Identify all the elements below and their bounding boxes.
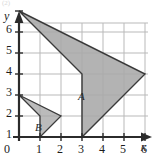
y-tick-label-6: 6 [6, 23, 12, 35]
x-tick-label-2: 2 [57, 143, 63, 155]
x-tick-label-3: 3 [78, 143, 84, 155]
y-tick-label-2: 2 [6, 107, 12, 119]
origin-label: 0 [4, 143, 10, 155]
y-tick-label-5: 5 [6, 44, 12, 56]
shape-label-A: A [78, 91, 85, 102]
figure-canvas [0, 0, 154, 159]
y-tick-label-3: 3 [6, 86, 12, 98]
y-tick-label-4: 4 [6, 65, 12, 77]
shape-label-B: B [35, 122, 42, 133]
y-tick-label-1: 1 [6, 128, 12, 140]
y-axis-title: y [4, 10, 9, 22]
coordinate-grid-figure: (2) [0, 0, 154, 159]
x-tick-label-1: 1 [36, 143, 42, 155]
x-tick-label-5: 5 [120, 143, 126, 155]
x-tick-label-4: 4 [99, 143, 105, 155]
x-tick-label-6: 6 [141, 143, 147, 155]
